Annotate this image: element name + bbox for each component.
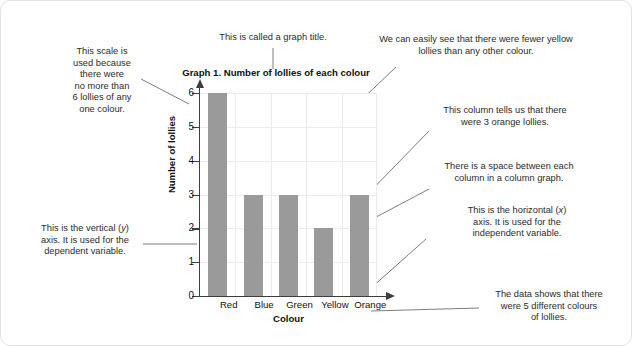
bar-red [208, 93, 227, 296]
bar-yellow [314, 228, 333, 296]
x-axis-title: Colour [200, 313, 377, 324]
plot-area [200, 93, 377, 296]
y-axis-line [199, 87, 200, 296]
bar-orange [350, 195, 369, 297]
gridline-v [271, 93, 272, 296]
chart-title: Graph 1. Number of lollies of each colou… [151, 67, 401, 79]
annotation-column-spacing: There is a space between each column in … [425, 161, 593, 184]
annotation-graph-title: This is called a graph title. [197, 32, 349, 44]
y-axis-title: Number of lollies [166, 95, 177, 215]
annotation-scale: This scale is used because there were no… [53, 46, 151, 116]
y-axis-arrow-icon [196, 79, 204, 88]
y-tick-label: 1 [176, 256, 194, 267]
gridline-v [342, 93, 343, 296]
annotation-y-axis: This is the vertical (y) axis. It is use… [23, 223, 147, 258]
annotation-five-colours: The data shows that there were 5 differe… [475, 289, 623, 324]
y-tick-label: 4 [176, 155, 194, 166]
column-chart: Graph 1. Number of lollies of each colou… [161, 67, 386, 312]
gridline-v [306, 93, 307, 296]
gridline-v [235, 93, 236, 296]
x-tick-label-orange: Orange [347, 299, 393, 310]
y-tick-label: 5 [176, 121, 194, 132]
gridline-v [376, 93, 377, 296]
x-axis-line [200, 296, 388, 297]
annotation-orange-column: This column tells us that there were 3 o… [425, 105, 585, 128]
worksheet-page: This scale is used because there were no… [0, 0, 632, 346]
y-tick-label: 6 [176, 87, 194, 98]
y-tick-label: 3 [176, 189, 194, 200]
bar-green [279, 195, 298, 297]
annotation-yellow-fewest: We can easily see that there were fewer … [367, 34, 585, 57]
annotation-x-axis: This is the horizontal (x) axis. It is u… [441, 205, 593, 240]
y-tick-label: 0 [176, 290, 194, 301]
y-tick-label: 2 [176, 222, 194, 233]
annotation-y-axis-text-pre: This is the vertical ( [41, 223, 121, 233]
bar-blue [244, 195, 263, 297]
annotation-x-axis-text-pre: This is the horizontal ( [468, 205, 559, 215]
